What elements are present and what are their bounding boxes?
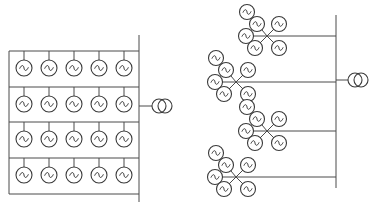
generator-icon xyxy=(116,60,132,76)
generator-icon xyxy=(219,158,234,173)
wind-farm-topology-diagram xyxy=(0,0,377,211)
generator-icon xyxy=(41,131,57,147)
generator-icon xyxy=(41,96,57,112)
right-star-layout xyxy=(208,5,369,197)
generator-icon xyxy=(16,96,32,112)
generator-icon xyxy=(41,167,57,183)
generator-icon xyxy=(272,112,287,127)
generator-icon xyxy=(241,182,256,197)
generator-icon xyxy=(250,17,265,32)
generator-icon xyxy=(116,167,132,183)
generator-icon xyxy=(241,158,256,173)
generator-icon xyxy=(209,51,224,66)
generator-icon xyxy=(41,60,57,76)
left-string-layout xyxy=(9,35,172,202)
generator-icon xyxy=(217,182,232,197)
generator-icon xyxy=(66,131,82,147)
transformer-icon xyxy=(348,73,368,87)
generator-icon xyxy=(219,63,234,78)
generator-icon xyxy=(91,96,107,112)
generator-icon xyxy=(250,112,265,127)
generator-icon xyxy=(217,87,232,102)
diagram-canvas xyxy=(0,0,377,211)
generator-icon xyxy=(16,167,32,183)
generator-icon xyxy=(66,60,82,76)
generator-icon xyxy=(91,131,107,147)
generator-icon xyxy=(91,60,107,76)
generator-icon xyxy=(272,17,287,32)
generator-icon xyxy=(272,136,287,151)
generator-icon xyxy=(16,131,32,147)
generator-icon xyxy=(91,167,107,183)
transformer-icon xyxy=(152,99,172,113)
generator-icon xyxy=(209,146,224,161)
generator-icon xyxy=(248,41,263,56)
generator-icon xyxy=(116,131,132,147)
generator-icon xyxy=(241,63,256,78)
generator-icon xyxy=(66,96,82,112)
generator-icon xyxy=(16,60,32,76)
generator-icon xyxy=(116,96,132,112)
generator-icon xyxy=(272,41,287,56)
generator-icon xyxy=(248,136,263,151)
generator-icon xyxy=(240,5,255,20)
generator-icon xyxy=(66,167,82,183)
generator-icon xyxy=(240,100,255,115)
